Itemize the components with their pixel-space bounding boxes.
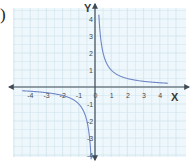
x-tick-label: -2 bbox=[60, 92, 66, 99]
y-tick-label: -4 bbox=[87, 152, 93, 159]
y-tick-label: 4 bbox=[89, 16, 93, 23]
x-tick-label: 2 bbox=[126, 92, 130, 99]
x-tick-label: -1 bbox=[76, 92, 82, 99]
y-tick-label: 1 bbox=[89, 67, 93, 74]
x-tick-label: -4 bbox=[27, 92, 33, 99]
x-axis-label: X bbox=[171, 91, 179, 103]
y-tick-label: -3 bbox=[87, 135, 93, 142]
y-tick-label: -1 bbox=[87, 101, 93, 108]
x-tick-label: -3 bbox=[43, 92, 49, 99]
y-axis-label: Y bbox=[84, 2, 92, 14]
y-tick-label: 3 bbox=[89, 33, 93, 40]
x-tick-label: 4 bbox=[158, 92, 162, 99]
x-tick-label: 3 bbox=[142, 92, 146, 99]
x-tick-label: 0 bbox=[94, 92, 98, 99]
y-tick-label: 2 bbox=[89, 50, 93, 57]
x-tick-label: 1 bbox=[110, 92, 114, 99]
y-tick-label: -2 bbox=[87, 118, 93, 125]
hyperbola-chart: -4-3-2-101234-4-3-2-11234 XY bbox=[0, 0, 193, 164]
